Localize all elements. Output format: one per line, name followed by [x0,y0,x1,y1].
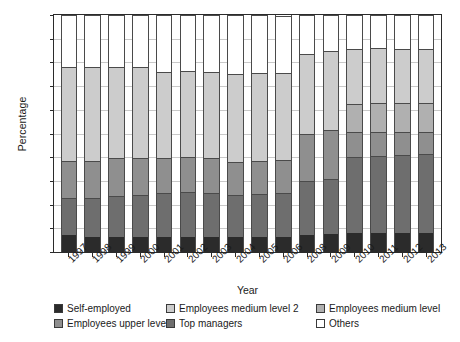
stacked-bar[interactable] [346,15,363,252]
stacked-bar[interactable] [251,15,268,252]
legend-item[interactable]: Self-employed [54,301,166,316]
bar-segment [181,157,196,191]
bar-segment [204,193,219,237]
legend-item[interactable]: Others [316,316,454,331]
bar-segment [276,16,291,73]
bar-segment [395,15,410,49]
bar-segment [157,193,172,237]
bar-segment [347,15,362,49]
bar-segment [109,196,124,236]
legend-item[interactable]: Top managers [166,316,316,331]
stacked-bar[interactable] [84,15,101,252]
stacked-bar[interactable] [180,15,197,252]
bar-segment [276,73,291,160]
bar-column [81,15,105,252]
legend-swatch [166,304,175,313]
bar-segment [85,198,100,237]
stacked-bar[interactable] [394,15,411,252]
bar-segment [228,74,243,162]
bar-segment [395,49,410,102]
bar-segment [371,48,386,103]
bar-column [367,15,391,252]
bar-segment [157,158,172,192]
bar-segment [324,179,339,235]
bar-segment [109,15,124,67]
bar-column [176,15,200,252]
stacked-bar[interactable] [323,15,340,252]
bar-column [248,15,272,252]
bar-column [152,15,176,252]
bar-segment [347,157,362,233]
bar-column [105,15,129,252]
legend-item[interactable]: Employees medium level [316,301,454,316]
legend-label: Employees medium level 2 [179,303,299,314]
bar-segment [324,130,339,179]
bar-column [295,15,319,252]
bar-segment [133,195,148,236]
bar-segment [157,15,172,72]
bar-segment [204,15,219,72]
bar-segment [62,198,77,236]
bar-segment [419,15,434,49]
bar-segment [324,15,339,51]
bar-column [57,15,81,252]
x-axis-title: Year [53,284,442,296]
plot-area: 0102030405060708090100 [53,14,442,253]
bar-segment [324,51,339,130]
bar-segment [85,161,100,198]
bar-segment [347,132,362,157]
stacked-bar[interactable] [370,15,387,252]
bar-segment [228,195,243,236]
bar-column [414,15,438,252]
bar-segment [419,132,434,153]
legend-swatch [316,319,325,328]
stacked-bar[interactable] [227,15,244,252]
bar-column [224,15,248,252]
bar-segment [300,15,315,54]
stacked-bar[interactable] [203,15,220,252]
bar-segment [85,15,100,67]
bar-segment [347,49,362,104]
bar-segment [252,73,267,161]
stacked-bar[interactable] [275,15,292,252]
stacked-bar[interactable] [61,15,78,252]
legend-item[interactable]: Employees medium level 2 [166,301,316,316]
bar-column [128,15,152,252]
legend-label: Self-employed [67,303,131,314]
legend-swatch [316,304,325,313]
bar-segment [395,103,410,133]
bar-segment [395,155,410,233]
legend-label: Others [329,318,359,329]
bar-column [390,15,414,252]
bar-segment [276,193,291,237]
bar-segment [62,67,77,161]
bar-segment [62,161,77,198]
bar-segment [204,72,219,159]
bar-column [200,15,224,252]
bar-segment [228,162,243,195]
bar-segment [204,158,219,192]
bar-segment [419,154,434,233]
bar-segment [109,67,124,158]
bar-segment [181,15,196,71]
bar-segment [85,67,100,161]
bar-segment [252,15,267,73]
legend-swatch [166,319,175,328]
bar-segment [181,192,196,237]
bar-segment [300,54,315,133]
legend-label: Top managers [179,318,242,329]
bar-segment [181,71,196,158]
bar-segment [228,15,243,74]
stacked-bar[interactable] [132,15,149,252]
stacked-bar[interactable] [299,15,316,252]
bar-segment [62,15,77,67]
bar-segment [371,103,386,133]
bar-column [343,15,367,252]
legend-swatch [54,304,63,313]
bar-segment [347,104,362,132]
stacked-bar[interactable] [108,15,125,252]
stacked-bar[interactable] [418,15,435,252]
stacked-bar[interactable] [156,15,173,252]
legend-item[interactable]: Employees upper level [54,316,166,331]
bar-column [271,15,295,252]
